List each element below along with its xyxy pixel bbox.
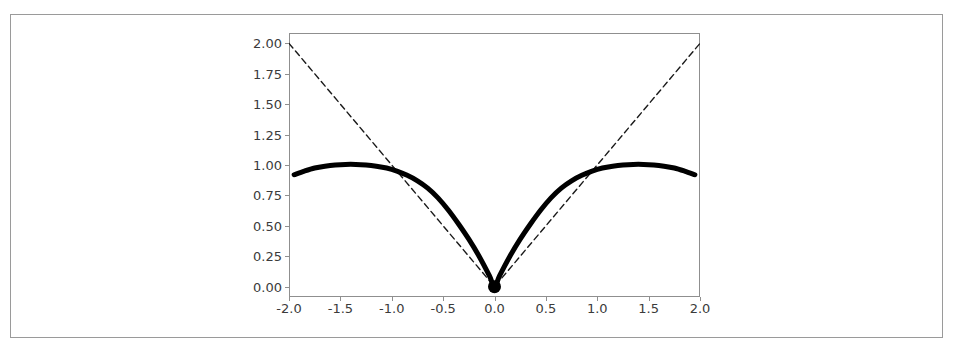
y-tick-label: 0.25 (253, 250, 282, 263)
series-smoothed-absolute-value (294, 164, 695, 286)
figure-root: 0.000.250.500.751.001.251.501.752.00 -2.… (0, 0, 960, 353)
plot-axes (289, 33, 700, 297)
x-tick-label: -0.5 (430, 302, 455, 315)
x-tick-label: 1.0 (587, 302, 608, 315)
data-marker-group (488, 280, 501, 293)
x-tick-mark (392, 297, 393, 301)
y-tick-label: 0.75 (253, 189, 282, 202)
y-tick-label: 0.50 (253, 219, 282, 232)
x-tick-mark (546, 297, 547, 301)
x-tick-label: -2.0 (276, 302, 301, 315)
x-tick-label: -1.5 (328, 302, 353, 315)
x-tick-mark (597, 297, 598, 301)
x-tick-label: 2.0 (690, 302, 711, 315)
plot-canvas (289, 33, 700, 297)
x-tick-mark (340, 297, 341, 301)
x-tick-label: -1.0 (379, 302, 404, 315)
y-tick-label: 1.50 (253, 98, 282, 111)
y-tick-label: 1.25 (253, 128, 282, 141)
x-tick-mark (700, 297, 701, 301)
x-tick-label: 0.5 (536, 302, 557, 315)
x-tick-label: 1.5 (638, 302, 659, 315)
x-tick-mark (289, 297, 290, 301)
origin-marker (488, 280, 501, 293)
x-axis-tick-labels: -2.0-1.5-1.0-0.50.00.51.01.52.0 (289, 300, 700, 322)
x-tick-mark (443, 297, 444, 301)
y-tick-label: 1.00 (253, 159, 282, 172)
y-tick-label: 1.75 (253, 67, 282, 80)
y-axis-tick-labels: 0.000.250.500.751.001.251.501.752.00 (240, 33, 282, 297)
data-series-group (289, 43, 700, 286)
x-tick-mark (495, 297, 496, 301)
y-tick-label: 2.00 (253, 37, 282, 50)
x-tick-mark (649, 297, 650, 301)
x-tick-label: 0.0 (484, 302, 505, 315)
y-tick-label: 0.00 (253, 280, 282, 293)
